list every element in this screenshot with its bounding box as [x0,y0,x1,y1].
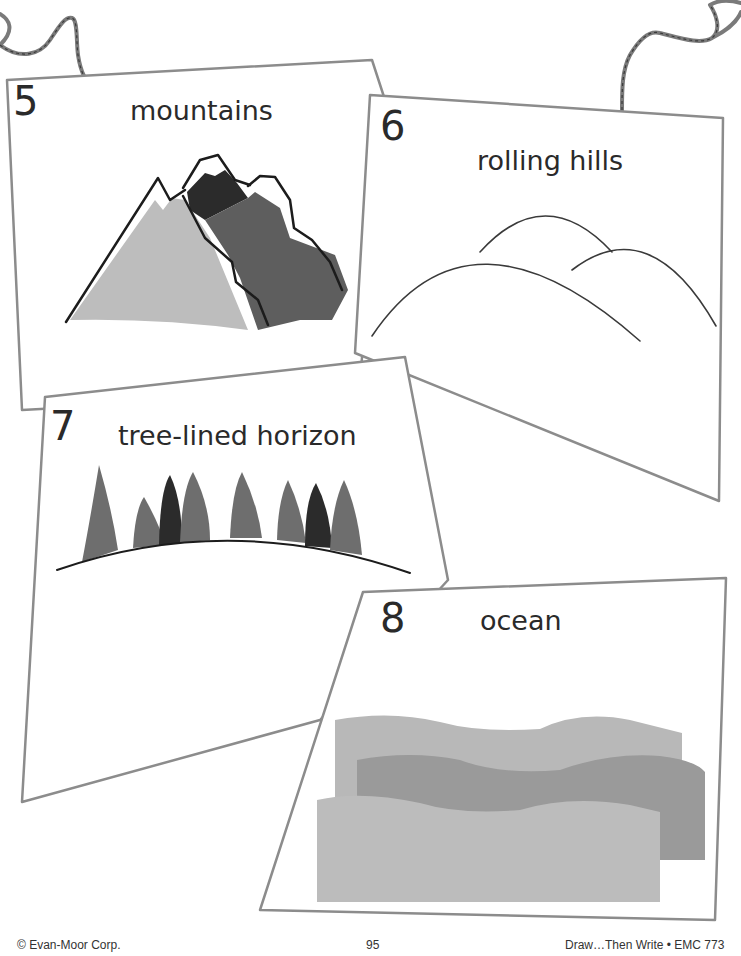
card-number: 6 [380,103,405,149]
string-right-icon [622,1,741,110]
card-number: 7 [50,403,75,449]
card-title: ocean [480,605,562,636]
card-5: 5 mountains [7,60,385,410]
copyright-text: © Evan-Moor Corp. [17,938,121,952]
card-title: rolling hills [477,145,623,176]
page-number: 95 [366,938,379,952]
card-number: 8 [380,595,405,641]
ocean-waves-icon [317,715,705,902]
card-number: 5 [13,78,38,124]
card-collage: 5 mountains 6 rolling hills 7 tr [0,0,741,956]
card-title: mountains [130,95,273,126]
book-info-text: Draw…Then Write • EMC 773 [565,938,724,952]
string-left-icon [0,14,84,76]
card-title: tree-lined horizon [118,420,357,451]
